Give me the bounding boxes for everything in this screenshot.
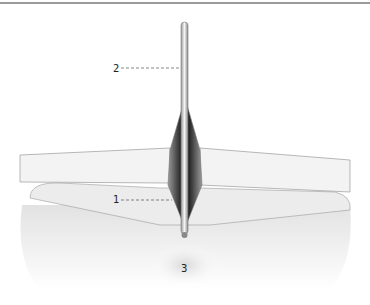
- right-tissue-band: [200, 148, 350, 192]
- surgical-illustration: [0, 0, 370, 305]
- callout-label-1: 1: [113, 195, 119, 205]
- callout-label-3: 3: [181, 264, 187, 274]
- probe-instrument: [181, 22, 188, 234]
- left-tissue-band: [20, 148, 170, 183]
- probe-tip: [182, 232, 188, 238]
- callout-label-2: 2: [113, 64, 119, 74]
